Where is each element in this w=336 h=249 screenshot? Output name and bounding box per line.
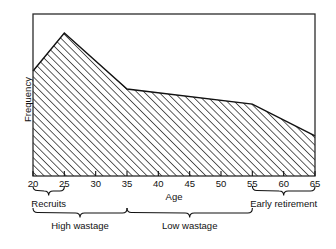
x-axis-title: Age — [166, 192, 183, 202]
x-tick-label-45: 45 — [184, 179, 195, 189]
x-tick-label-65: 65 — [310, 179, 321, 189]
brace-low_wastage — [127, 208, 252, 218]
x-tick-label-20: 20 — [28, 179, 39, 189]
y-axis-title: Frequency — [22, 77, 33, 122]
annotation-label-early_retirement: Early retirement — [250, 199, 317, 209]
x-tick-label-55: 55 — [247, 179, 258, 189]
annotation-label-high_wastage: High wastage — [51, 221, 109, 231]
chart-figure: 20253035404550556065 Age Frequency Recru… — [0, 0, 336, 249]
x-tick-label-35: 35 — [122, 179, 133, 189]
x-tick-label-50: 50 — [216, 179, 227, 189]
annotation-label-low_wastage: Low wastage — [162, 221, 217, 231]
x-tick-label-25: 25 — [59, 179, 70, 189]
x-tick-label-60: 60 — [278, 179, 289, 189]
x-tick-label-30: 30 — [90, 179, 101, 189]
x-tick-label-40: 40 — [153, 179, 164, 189]
brace-high_wastage — [33, 208, 127, 218]
annotation-label-recruits: Recruits — [31, 199, 66, 209]
frequency-age-area-chart — [0, 0, 336, 249]
